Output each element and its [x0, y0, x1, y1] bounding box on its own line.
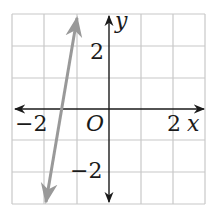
x-tick-label-2: 2 [167, 111, 181, 136]
y-axis-label: y [114, 8, 128, 33]
y-tick-label-2: 2 [90, 39, 104, 64]
x-axis-label: x [187, 111, 200, 136]
coordinate-plane: y 2 −2 O 2 x −2 [0, 0, 218, 216]
origin-label: O [86, 111, 104, 136]
y-tick-label-neg2: −2 [70, 158, 102, 183]
x-tick-label-neg2: −2 [15, 111, 47, 136]
